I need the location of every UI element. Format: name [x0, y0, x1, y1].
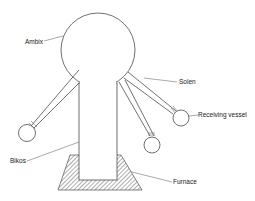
- label-ambix: Ambix: [25, 38, 44, 45]
- left-spout: [29, 70, 79, 129]
- right-inner-spout: [119, 80, 155, 136]
- label-furnace: Furnace: [173, 178, 197, 185]
- receiving-vessel: [173, 110, 189, 126]
- still-column: [79, 83, 117, 180]
- left-receiving-flask: [19, 125, 36, 142]
- label-receiving-vessel: Receiving vessel: [198, 111, 247, 119]
- label-solen: Solen: [179, 78, 196, 85]
- alembic-diagram: Ambix Solen Receiving vessel Bikos Furna…: [0, 0, 255, 201]
- lower-right-flask: [144, 137, 160, 153]
- ambix-sphere: [61, 13, 135, 88]
- label-bikos: Bikos: [10, 157, 27, 164]
